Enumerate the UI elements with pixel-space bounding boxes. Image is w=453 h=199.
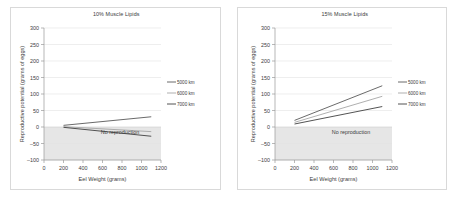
x-tick-label: 800 bbox=[118, 165, 127, 171]
legend-label-6000-km: 6000 km bbox=[408, 91, 426, 96]
x-tick-label: 0 bbox=[273, 165, 276, 171]
y-tick-label: 0 bbox=[267, 124, 270, 130]
y-axis-title: Reproductive potential (grams of eggs) bbox=[250, 46, 256, 143]
legend-label-7000-km: 7000 km bbox=[177, 102, 195, 107]
y-tick-label: –100 bbox=[258, 157, 270, 163]
y-tick-label: 250 bbox=[261, 42, 270, 48]
plot-body-10: –100–50050100150200250300020040060080010… bbox=[19, 25, 195, 182]
plot-area-wrapper: –100–50050100150200250300020040060080010… bbox=[0, 0, 227, 199]
x-axis-title: Eel Weight (grams) bbox=[309, 176, 357, 182]
y-tick-label: 150 bbox=[30, 75, 39, 81]
plot-svg-15-percent: –100–50050100150200250300020040060080010… bbox=[227, 0, 453, 199]
y-tick-label: 100 bbox=[30, 91, 39, 97]
x-tick-label: 600 bbox=[329, 165, 338, 171]
y-tick-label: 200 bbox=[30, 58, 39, 64]
y-tick-label: 300 bbox=[261, 25, 270, 31]
y-tick-label: –100 bbox=[27, 157, 39, 163]
x-tick-label: 1000 bbox=[366, 165, 378, 171]
x-tick-label: 0 bbox=[43, 165, 46, 171]
legend-label-5000-km: 5000 km bbox=[408, 80, 426, 85]
x-tick-label: 600 bbox=[98, 165, 107, 171]
series-line-5000-km bbox=[64, 117, 152, 126]
x-tick-label: 1200 bbox=[386, 165, 398, 171]
y-tick-label: –50 bbox=[30, 141, 39, 147]
annotation-no-reproduction: No reproduction bbox=[331, 129, 369, 135]
y-tick-label: 50 bbox=[33, 108, 39, 114]
x-axis-title: Eel Weight (grams) bbox=[79, 176, 127, 182]
x-tick-label: 200 bbox=[59, 165, 68, 171]
y-tick-label: 150 bbox=[261, 75, 270, 81]
y-tick-label: –50 bbox=[261, 141, 270, 147]
x-tick-label: 1200 bbox=[155, 165, 167, 171]
x-tick-label: 400 bbox=[79, 165, 88, 171]
figure-two-panel-line-charts: 10% Muscle Lipids –100–50050100150200250… bbox=[0, 0, 453, 199]
legend-label-6000-km: 6000 km bbox=[177, 91, 195, 96]
x-tick-label: 200 bbox=[290, 165, 299, 171]
chart-panel-15-percent: 15% Muscle Lipids –100–50050100150200250… bbox=[227, 0, 453, 199]
y-tick-label: 300 bbox=[30, 25, 39, 31]
x-tick-label: 400 bbox=[309, 165, 318, 171]
plot-area-wrapper: –100–50050100150200250300020040060080010… bbox=[227, 0, 453, 199]
x-tick-label: 800 bbox=[348, 165, 357, 171]
legend-label-5000-km: 5000 km bbox=[177, 80, 195, 85]
chart-panel-10-percent: 10% Muscle Lipids –100–50050100150200250… bbox=[0, 0, 227, 199]
y-tick-label: 0 bbox=[36, 124, 39, 130]
legend-label-7000-km: 7000 km bbox=[408, 102, 426, 107]
plot-body-15: –100–50050100150200250300020040060080010… bbox=[250, 25, 426, 182]
y-tick-label: 100 bbox=[261, 91, 270, 97]
x-tick-label: 1000 bbox=[136, 165, 148, 171]
y-tick-label: 200 bbox=[261, 58, 270, 64]
plot-svg-10-percent: –100–50050100150200250300020040060080010… bbox=[0, 0, 227, 199]
annotation-no-reproduction: No reproduction bbox=[101, 129, 139, 135]
y-tick-label: 250 bbox=[30, 42, 39, 48]
y-axis-title: Reproductive potential (grams of eggs) bbox=[19, 46, 25, 143]
y-tick-label: 50 bbox=[264, 108, 270, 114]
